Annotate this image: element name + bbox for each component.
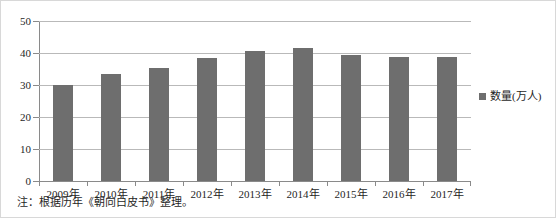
y-axis-tick-label: 30	[5, 80, 31, 91]
x-tick	[423, 182, 424, 186]
bar-2017年	[437, 57, 457, 181]
chart-source-note: 注：根据历年《朝向白皮书》整理。	[17, 195, 193, 209]
bar-2015年	[341, 55, 361, 181]
x-tick	[279, 182, 280, 186]
y-tick-0	[33, 181, 39, 182]
x-axis-label-2017年: 2017年	[423, 188, 471, 200]
y-axis-tick-label: 50	[5, 16, 31, 27]
bar-2011年	[149, 68, 169, 181]
y-axis-tick-label: 10	[5, 144, 31, 155]
legend-label-quantity: 数量(万人)	[490, 91, 541, 102]
y-tick-30	[33, 85, 39, 86]
y-tick-40	[33, 53, 39, 54]
bar-2016年	[389, 57, 409, 181]
y-axis-labels: 01020304050	[1, 21, 31, 182]
x-tick	[470, 182, 471, 186]
bar-chart: 01020304050 2009年2010年2011年2012年2013年201…	[1, 7, 556, 187]
bar-2012年	[197, 58, 217, 181]
y-tick-50	[33, 21, 39, 22]
y-axis-tick-label: 0	[5, 176, 31, 187]
y-tick-10	[33, 149, 39, 150]
bar-2013年	[245, 51, 265, 181]
x-axis-label-2015年: 2015年	[327, 188, 375, 200]
gridline-50	[39, 21, 471, 22]
x-tick	[135, 182, 136, 186]
bar-2010年	[101, 74, 121, 181]
x-axis-label-2014年: 2014年	[279, 188, 327, 200]
chart-legend: 数量(万人)	[479, 91, 541, 102]
x-tick	[375, 182, 376, 186]
x-tick	[327, 182, 328, 186]
x-axis-label-2016年: 2016年	[375, 188, 423, 200]
chart-figure: 01020304050 2009年2010年2011年2012年2013年201…	[0, 0, 556, 218]
y-axis-tick-label: 20	[5, 112, 31, 123]
bar-2014年	[293, 48, 313, 181]
x-tick	[231, 182, 232, 186]
plot-area	[39, 21, 471, 181]
x-tick	[87, 182, 88, 186]
bar-2009年	[53, 85, 73, 181]
x-tick	[39, 182, 40, 186]
legend-swatch-quantity	[479, 93, 486, 100]
y-axis-tick-label: 40	[5, 48, 31, 59]
x-axis-label-2013年: 2013年	[231, 188, 279, 200]
x-tick	[183, 182, 184, 186]
y-tick-20	[33, 117, 39, 118]
